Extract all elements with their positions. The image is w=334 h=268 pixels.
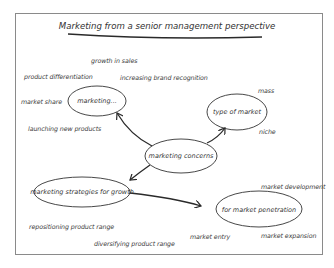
label-launching-new-products: launching new products xyxy=(28,125,101,132)
label-market-share: market share xyxy=(21,98,62,105)
edge-center-to-strategies xyxy=(130,165,150,180)
node-strategies: marketing strategies for growth xyxy=(30,188,134,196)
label-diversifying-product-range: diversifying product range xyxy=(94,240,175,247)
label-market-expansion: market expansion xyxy=(261,232,316,239)
edge-center-to-type xyxy=(207,128,225,143)
node-type-of-market: type of market xyxy=(213,108,261,116)
label-increasing-brand-recognition: increasing brand recognition xyxy=(120,74,208,81)
node-center: marketing concerns xyxy=(149,152,214,160)
edge-strategies-to-penetration xyxy=(130,193,201,206)
label-growth-in-sales: growth in sales xyxy=(91,57,137,64)
title-underline xyxy=(68,34,262,38)
edge-center-to-marketing xyxy=(117,113,152,146)
label-market-entry: market entry xyxy=(190,233,230,240)
label-repositioning-product-range: repositioning product range xyxy=(29,223,114,230)
node-penetration: for market penetration xyxy=(222,206,296,214)
label-product-differentiation: product differentiation xyxy=(24,73,93,80)
label-niche: niche xyxy=(259,128,276,135)
label-market-development: market development xyxy=(261,183,325,190)
diagram-title: Marketing from a senior management persp… xyxy=(0,21,334,31)
label-mass: mass xyxy=(258,87,274,94)
node-marketing: marketing... xyxy=(77,97,117,105)
